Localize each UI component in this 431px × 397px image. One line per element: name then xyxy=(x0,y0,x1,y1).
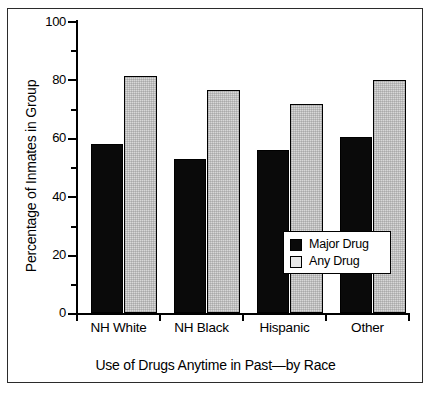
y-axis-tick-labels: 100 80 60 40 20 0 xyxy=(0,0,66,397)
bar-any-drug-nh-black xyxy=(207,90,240,313)
y-tick-100 xyxy=(68,21,78,23)
y-tick-label-20: 20 xyxy=(52,248,66,261)
y-tick-20 xyxy=(68,255,78,257)
x-category-label-hispanic: Hispanic xyxy=(243,320,326,336)
legend-entry-major-drug: Major Drug xyxy=(290,236,385,253)
legend-label-any-drug: Any Drug xyxy=(309,255,360,268)
y-tick-30 xyxy=(71,226,78,228)
bar-major-drug-nh-black xyxy=(174,159,206,313)
legend-entry-any-drug: Any Drug xyxy=(290,253,385,270)
x-category-label-nh-white: NH White xyxy=(77,320,160,336)
y-tick-70 xyxy=(71,109,78,111)
chart-legend: Major Drug Any Drug xyxy=(283,231,391,274)
y-tick-label-100: 100 xyxy=(45,15,66,28)
y-tick-label-0: 0 xyxy=(59,306,66,319)
bar-any-drug-hispanic xyxy=(290,104,323,314)
y-tick-90 xyxy=(71,50,78,52)
x-category-label-nh-black: NH Black xyxy=(160,320,243,336)
legend-label-major-drug: Major Drug xyxy=(309,238,369,251)
y-tick-50 xyxy=(71,167,78,169)
y-tick-label-60: 60 xyxy=(52,131,66,144)
bar-any-drug-nh-white xyxy=(124,76,157,313)
y-tick-40 xyxy=(68,196,78,198)
y-tick-10 xyxy=(71,284,78,286)
legend-swatch-any-drug-icon xyxy=(290,256,302,268)
bar-major-drug-other xyxy=(340,137,372,313)
y-tick-label-80: 80 xyxy=(52,73,66,86)
x-category-label-other: Other xyxy=(326,320,409,336)
x-axis-title: Use of Drugs Anytime in Past—by Race xyxy=(0,357,431,373)
bar-major-drug-nh-white xyxy=(91,144,123,313)
legend-swatch-major-drug-icon xyxy=(290,239,302,251)
y-tick-60 xyxy=(68,138,78,140)
bar-any-drug-other xyxy=(373,80,406,313)
figure-canvas: Percentage of Inmates in Group 100 80 60… xyxy=(0,0,431,397)
y-tick-80 xyxy=(68,79,78,81)
y-tick-label-40: 40 xyxy=(52,190,66,203)
